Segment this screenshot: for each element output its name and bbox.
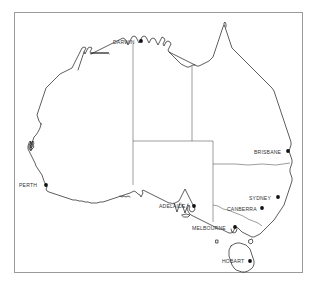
qld-nsw-border — [213, 163, 290, 165]
city-dot-perth[interactable] — [44, 183, 48, 187]
australia-map: DARWIN BRISBANE PERTH SYDNEY ADELAIDE CA… — [0, 0, 317, 291]
city-dot-adelaide[interactable] — [192, 204, 196, 208]
kangaroo-island — [182, 214, 190, 217]
city-label-melbourne: MELBOURNE — [192, 225, 226, 231]
king-island — [216, 240, 218, 243]
city-dot-brisbane[interactable] — [286, 149, 290, 153]
city-label-canberra: CANBERRA — [227, 206, 257, 212]
flinders-island — [249, 239, 253, 244]
city-label-darwin: DARWIN — [113, 39, 135, 45]
city-label-brisbane: BRISBANE — [254, 149, 281, 155]
city-dot-sydney[interactable] — [276, 195, 280, 199]
city-dot-hobart[interactable] — [248, 259, 252, 263]
kimberley-coast-detail — [91, 52, 109, 54]
city-label-adelaide: ADELAIDE — [159, 203, 186, 209]
city-dot-melbourne[interactable] — [233, 225, 237, 229]
map-graphics — [0, 0, 317, 291]
city-dot-darwin[interactable] — [139, 39, 143, 43]
city-dot-canberra[interactable] — [260, 206, 264, 210]
city-label-sydney: SYDNEY — [249, 195, 271, 201]
city-label-perth: PERTH — [19, 182, 37, 188]
city-label-hobart: HOBART — [222, 258, 244, 264]
